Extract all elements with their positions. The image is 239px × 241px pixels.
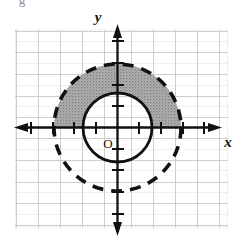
x-axis-label: x: [223, 134, 232, 150]
origin-label: O: [103, 136, 112, 151]
graph-canvas: y x O g: [0, 0, 239, 241]
figure-root: y x O g: [0, 0, 239, 241]
y-axis-label: y: [93, 9, 102, 25]
cropped-figure-label-fragment: g: [19, 0, 26, 7]
